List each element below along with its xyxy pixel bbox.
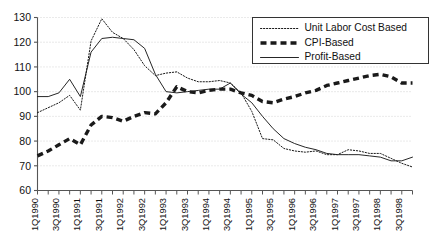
x-tick-label: 1Q1991 (72, 198, 82, 231)
x-tick-label: 1Q1990 (30, 198, 40, 231)
y-axis (34, 18, 38, 191)
x-tick-label: 3Q1992 (137, 198, 147, 231)
y-tick-label: 110 (14, 61, 31, 73)
y-axis-tick-labels: 60708090100110120130 (13, 11, 31, 196)
x-tick-label: 3Q1993 (180, 198, 190, 231)
x-tick-label: 3Q1990 (51, 198, 61, 231)
y-tick-label: 100 (13, 85, 31, 97)
chart-container: 60708090100110120130 1Q19903Q19901Q19913… (0, 0, 439, 248)
legend-label: CPI-Based (305, 37, 355, 48)
x-tick-label: 1Q1997 (330, 198, 340, 231)
x-tick-label: 1Q1998 (372, 198, 382, 231)
y-tick-label: 80 (19, 135, 31, 147)
y-tick-label: 70 (19, 160, 31, 172)
x-axis (38, 191, 413, 195)
x-tick-label: 3Q1997 (351, 198, 361, 231)
x-tick-label: 3Q1994 (222, 198, 232, 231)
legend-label: Profit-Based (305, 51, 361, 62)
x-tick-label: 1Q1994 (201, 198, 211, 231)
x-tick-label: 1Q1992 (115, 198, 125, 231)
y-tick-label: 130 (13, 11, 31, 23)
x-tick-label: 3Q1995 (265, 198, 275, 231)
x-tick-label: 3Q1991 (94, 198, 104, 231)
y-tick-label: 120 (13, 36, 31, 48)
legend-label: Unit Labor Cost Based (305, 22, 408, 33)
x-tick-label: 1Q1993 (158, 198, 168, 231)
x-tick-label: 1Q1995 (244, 198, 254, 231)
x-axis-tick-labels: 1Q19903Q19901Q19913Q19911Q19923Q19921Q19… (30, 198, 404, 231)
y-tick-label: 90 (19, 110, 31, 122)
x-tick-label: 1Q1996 (287, 198, 297, 231)
y-tick-label: 60 (19, 184, 31, 196)
chart-legend: Unit Labor Cost BasedCPI-BasedProfit-Bas… (253, 18, 429, 64)
x-tick-label: 3Q1996 (308, 198, 318, 231)
x-tick-label: 3Q1998 (394, 198, 404, 231)
chart-plot-area: 60708090100110120130 1Q19903Q19901Q19913… (0, 0, 439, 248)
